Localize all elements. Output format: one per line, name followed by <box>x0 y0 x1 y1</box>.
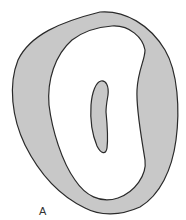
figure-label: A <box>39 205 46 217</box>
cross-section-diagram <box>0 0 186 220</box>
central-canal <box>91 81 108 153</box>
